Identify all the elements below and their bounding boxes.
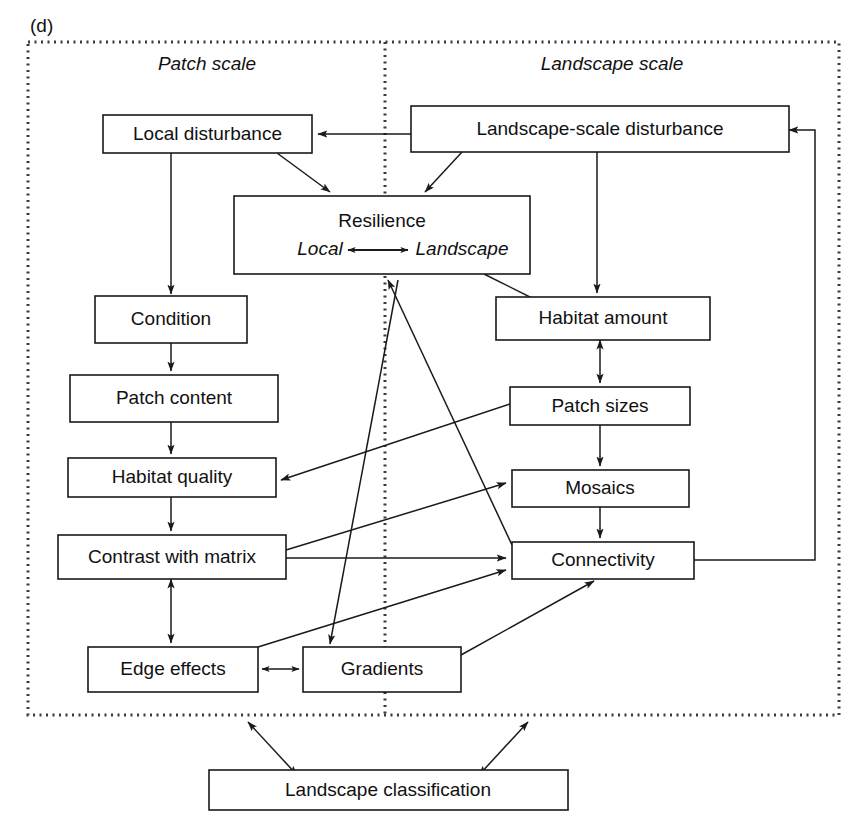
node-resilience-sublabel-landscape: Landscape — [416, 238, 509, 259]
node-patch-sizes[interactable]: Patch sizes — [510, 387, 690, 425]
edge-resilience-to-gradients — [330, 280, 398, 644]
node-resilience-sublabel-local: Local — [297, 238, 343, 259]
node-resilience[interactable]: Resilience Local Landscape — [234, 196, 530, 274]
panel-label: (d) — [30, 15, 53, 36]
node-resilience-rect[interactable] — [234, 196, 530, 274]
node-gradients[interactable]: Gradients — [303, 647, 461, 692]
node-contrast-with-matrix-label: Contrast with matrix — [88, 546, 256, 567]
node-habitat-amount-label: Habitat amount — [539, 307, 669, 328]
node-local-disturbance-label: Local disturbance — [133, 123, 282, 144]
node-condition[interactable]: Condition — [95, 296, 247, 343]
edge-contrast-with-matrix-to-mosaics — [286, 483, 506, 550]
node-connectivity[interactable]: Connectivity — [512, 542, 694, 579]
heading-patch-scale: Patch scale — [158, 53, 256, 74]
figure-root: (d) Patch scale Landscape scale — [0, 0, 867, 833]
edge-edge-effects-to-connectivity — [258, 570, 506, 647]
edge-connectivity-to-landscape-disturbance — [694, 130, 815, 560]
node-contrast-with-matrix[interactable]: Contrast with matrix — [58, 535, 286, 579]
node-edge-effects-label: Edge effects — [120, 658, 225, 679]
heading-landscape-scale: Landscape scale — [541, 53, 684, 74]
node-mosaics-label: Mosaics — [565, 477, 635, 498]
concept-diagram: (d) Patch scale Landscape scale — [0, 0, 867, 833]
node-local-disturbance[interactable]: Local disturbance — [103, 115, 312, 153]
edge-landscape-disturbance-to-resilience — [425, 152, 462, 192]
node-resilience-label: Resilience — [338, 210, 426, 231]
node-patch-content[interactable]: Patch content — [70, 375, 278, 422]
edge-landscape-classification-to-patch-region — [248, 722, 297, 775]
node-connectivity-label: Connectivity — [551, 549, 655, 570]
edge-connectivity-to-resilience — [388, 280, 512, 545]
node-landscape-classification[interactable]: Landscape classification — [209, 770, 568, 810]
node-landscape-scale-disturbance-label: Landscape-scale disturbance — [476, 118, 723, 139]
edge-local-disturbance-to-resilience — [277, 153, 330, 192]
node-gradients-label: Gradients — [341, 658, 423, 679]
edge-landscape-classification-to-landscape-region — [479, 722, 528, 775]
node-landscape-classification-label: Landscape classification — [285, 779, 491, 800]
edge-gradients-to-connectivity — [461, 581, 594, 655]
node-patch-sizes-label: Patch sizes — [551, 395, 648, 416]
node-condition-label: Condition — [131, 308, 211, 329]
node-mosaics[interactable]: Mosaics — [512, 470, 689, 507]
node-patch-content-label: Patch content — [116, 387, 233, 408]
node-edge-effects[interactable]: Edge effects — [88, 647, 258, 692]
node-habitat-amount[interactable]: Habitat amount — [496, 297, 710, 340]
node-landscape-scale-disturbance[interactable]: Landscape-scale disturbance — [411, 106, 789, 152]
node-habitat-quality[interactable]: Habitat quality — [68, 458, 276, 497]
node-habitat-quality-label: Habitat quality — [112, 466, 233, 487]
